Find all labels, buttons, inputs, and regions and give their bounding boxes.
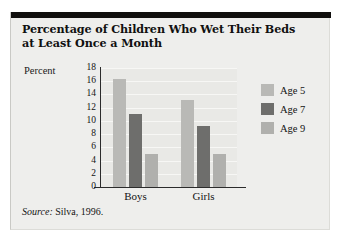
source-value: Silva, 1996.: [55, 206, 103, 217]
legend-label: Age 5: [280, 85, 305, 96]
chart-figure: Percentage of Children Who Wet Their Bed…: [10, 12, 330, 230]
y-tick-label: 14: [70, 88, 96, 98]
bar-girls-age-7: [197, 126, 210, 187]
y-tick-label: 6: [70, 141, 96, 151]
source-note: Source: Silva, 1996.: [22, 206, 103, 217]
chart-title-line-1: Percentage of Children Who Wet Their Bed…: [22, 22, 295, 36]
y-tick-label: 2: [70, 168, 96, 178]
legend-swatch-icon: [261, 84, 274, 96]
legend-label: Age 9: [280, 123, 305, 134]
legend-item-age-7: Age 7: [261, 101, 305, 117]
y-axis-label: Percent: [24, 65, 56, 76]
legend-item-age-9: Age 9: [261, 120, 305, 136]
y-axis-line: [100, 67, 101, 188]
source-label: Source:: [22, 206, 53, 217]
legend: Age 5Age 7Age 9: [261, 82, 305, 139]
y-tick-label: 10: [70, 115, 96, 125]
y-tick-label: 12: [70, 102, 96, 112]
chart-title-line-2: at Least Once a Month: [22, 36, 162, 50]
y-tick-label: 4: [70, 155, 96, 165]
y-tick-label: 16: [70, 75, 96, 85]
gridline: [101, 68, 237, 69]
y-tick-label: 0: [70, 181, 96, 191]
x-tick-label-girls: Girls: [174, 190, 234, 202]
bar-girls-age-5: [181, 100, 194, 187]
bar-boys-age-5: [113, 79, 126, 187]
bar-boys-age-9: [145, 154, 158, 187]
legend-item-age-5: Age 5: [261, 82, 305, 98]
legend-label: Age 7: [280, 104, 305, 115]
header-rule: [11, 12, 331, 18]
legend-swatch-icon: [261, 122, 274, 134]
y-tick-label: 8: [70, 128, 96, 138]
x-axis-line: [94, 187, 246, 188]
bar-girls-age-9: [213, 154, 226, 187]
legend-swatch-icon: [261, 103, 274, 115]
bar-boys-age-7: [129, 114, 142, 187]
chart-title: Percentage of Children Who Wet Their Bed…: [22, 23, 314, 50]
x-tick-label-boys: Boys: [106, 190, 166, 202]
y-tick-label: 18: [70, 62, 96, 72]
